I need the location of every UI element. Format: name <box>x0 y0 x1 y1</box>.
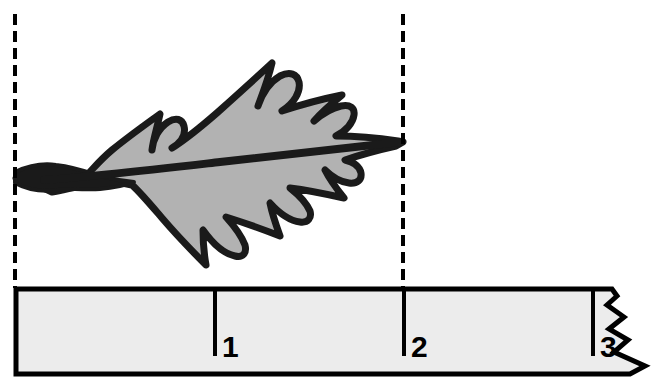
ruler-tick-label-2: 2 <box>411 330 428 363</box>
ruler-body <box>16 289 645 374</box>
ruler <box>16 289 645 374</box>
ruler-tick-label-3: 3 <box>600 330 617 363</box>
lobed-leaf <box>15 63 403 265</box>
ruler-tick-label-1: 1 <box>222 330 239 363</box>
figure-canvas: 1 2 3 <box>0 0 657 392</box>
leaf-measurement-figure: 1 2 3 <box>0 0 657 392</box>
